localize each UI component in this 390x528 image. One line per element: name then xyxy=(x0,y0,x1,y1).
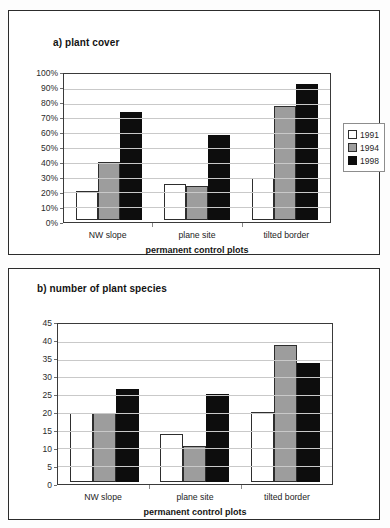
gridline xyxy=(58,431,332,432)
legend-swatch-icon xyxy=(348,156,357,165)
bar-1991 xyxy=(252,178,274,220)
chart-a-axis-title: permanent control plots xyxy=(63,245,331,255)
chart-b-bars xyxy=(60,326,331,483)
y-axis-tick-mark xyxy=(60,148,63,149)
chart-a-x-labels: NW slopeplane sitetilted border xyxy=(63,230,331,240)
legend-swatch-icon xyxy=(348,143,357,152)
legend-item: 1998 xyxy=(348,154,379,167)
bar-group xyxy=(150,326,240,483)
x-axis-tick-mark xyxy=(152,223,153,227)
gridline xyxy=(64,192,330,193)
gridline xyxy=(64,178,330,179)
chart-panel-b: b) number of plant species 0510152025303… xyxy=(8,268,380,520)
y-axis-tick-label: 40 xyxy=(43,336,52,346)
y-axis-tick-mark xyxy=(60,223,63,224)
gridline xyxy=(58,413,332,414)
x-axis-label: plane site xyxy=(152,230,241,240)
gridline xyxy=(64,118,330,119)
x-axis-tick-mark xyxy=(149,485,150,489)
figure-page: a) plant cover 0%10%20%30%40%50%60%70%80… xyxy=(0,0,390,528)
chart-b-x-labels: NW slopeplane sitetilted border xyxy=(57,492,333,502)
x-axis-label: plane site xyxy=(149,492,241,502)
gridline xyxy=(58,448,332,449)
y-axis-tick-label: 0 xyxy=(47,480,52,490)
y-axis-tick-mark xyxy=(54,323,57,324)
y-axis-tick-mark xyxy=(54,467,57,468)
legend-swatch-icon xyxy=(348,130,357,139)
y-axis-tick-label: 20% xyxy=(41,188,58,198)
bar-1998 xyxy=(297,363,320,483)
bar-1998 xyxy=(120,112,142,221)
bar-1991 xyxy=(164,184,186,220)
chart-a-plot-area xyxy=(63,73,331,223)
bar-1991 xyxy=(160,434,183,483)
gridline xyxy=(58,395,332,396)
y-axis-tick-label: 10 xyxy=(43,444,52,454)
y-axis-tick-mark xyxy=(60,103,63,104)
legend-label: 1991 xyxy=(360,130,379,140)
bar-group xyxy=(60,326,150,483)
legend-label: 1998 xyxy=(360,156,379,166)
chart-a-title: a) plant cover xyxy=(53,37,119,48)
y-axis-tick-mark xyxy=(54,449,57,450)
y-axis-tick-label: 0% xyxy=(46,218,58,228)
bar-1998 xyxy=(206,394,229,483)
y-axis-tick-mark xyxy=(60,208,63,209)
x-axis-tick-mark xyxy=(241,485,242,489)
bar-group xyxy=(240,326,330,483)
y-axis-tick-label: 90% xyxy=(41,83,58,93)
y-axis-tick-mark xyxy=(60,178,63,179)
gridline xyxy=(58,360,332,361)
chart-b-title: b) number of plant species xyxy=(37,283,167,294)
y-axis-tick-label: 30 xyxy=(43,372,52,382)
gridline xyxy=(64,163,330,164)
y-axis-tick-label: 45 xyxy=(43,318,52,328)
y-axis-tick-label: 35 xyxy=(43,354,52,364)
y-axis-tick-mark xyxy=(54,377,57,378)
chart-b-plot-area xyxy=(57,323,333,485)
y-axis-tick-mark xyxy=(54,485,57,486)
y-axis-tick-label: 10% xyxy=(41,203,58,213)
y-axis-tick-label: 20 xyxy=(43,408,52,418)
gridline xyxy=(58,466,332,467)
y-axis-tick-mark xyxy=(54,431,57,432)
y-axis-tick-label: 40% xyxy=(41,158,58,168)
bar-1998 xyxy=(296,84,318,220)
bar-1998 xyxy=(116,389,139,482)
bar-1994 xyxy=(186,186,208,221)
y-axis-tick-mark xyxy=(54,413,57,414)
x-axis-tick-mark xyxy=(242,223,243,227)
chart-panel-a: a) plant cover 0%10%20%30%40%50%60%70%80… xyxy=(8,10,380,255)
y-axis-tick-mark xyxy=(60,133,63,134)
y-axis-tick-mark xyxy=(60,88,63,89)
x-axis-label: NW slope xyxy=(63,230,152,240)
y-axis-tick-label: 100% xyxy=(36,68,58,78)
gridline xyxy=(64,89,330,90)
x-axis-label: tilted border xyxy=(242,230,331,240)
y-axis-tick-label: 70% xyxy=(41,113,58,123)
y-axis-tick-label: 30% xyxy=(41,173,58,183)
gridline xyxy=(64,207,330,208)
x-axis-label: NW slope xyxy=(57,492,149,502)
y-axis-tick-label: 60% xyxy=(41,128,58,138)
y-axis-tick-mark xyxy=(54,395,57,396)
legend-item: 1994 xyxy=(348,141,379,154)
y-axis-tick-label: 15 xyxy=(43,426,52,436)
legend-label: 1994 xyxy=(360,143,379,153)
y-axis-tick-mark xyxy=(60,193,63,194)
y-axis-tick-label: 25 xyxy=(43,390,52,400)
y-axis-tick-mark xyxy=(60,73,63,74)
gridline xyxy=(64,104,330,105)
y-axis-tick-mark xyxy=(54,341,57,342)
bar-1994 xyxy=(183,446,206,483)
chart-b-plot: 051015202530354045 NW slopeplane sitetil… xyxy=(57,323,333,485)
gridline xyxy=(58,377,332,378)
bar-1991 xyxy=(251,412,274,483)
x-axis-label: tilted border xyxy=(241,492,333,502)
chart-a-legend: 199119941998 xyxy=(343,123,385,172)
legend-item: 1991 xyxy=(348,128,379,141)
y-axis-tick-label: 5 xyxy=(47,462,52,472)
y-axis-tick-mark xyxy=(60,118,63,119)
gridline xyxy=(64,148,330,149)
chart-a-plot: 0%10%20%30%40%50%60%70%80%90%100% NW slo… xyxy=(63,73,331,223)
